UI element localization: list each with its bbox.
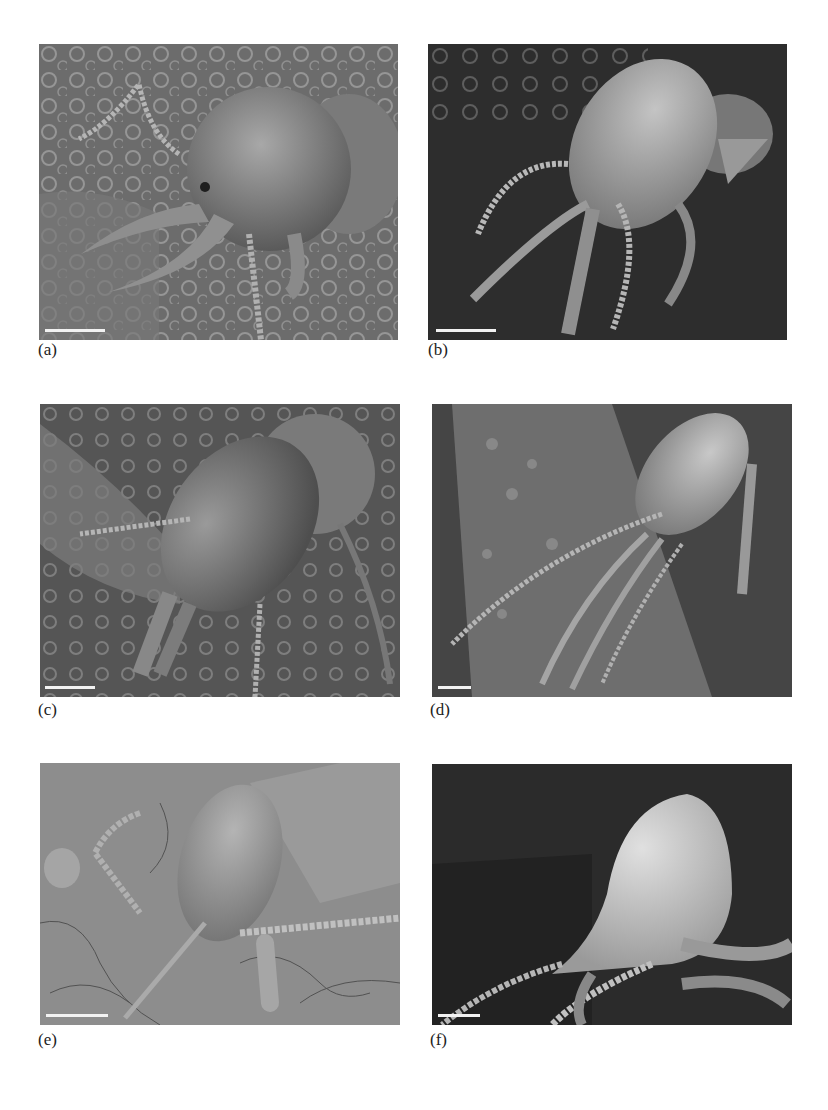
micrograph-d [432,404,792,697]
termite-soldier-image [432,404,792,697]
panel-label: (c) [38,700,57,720]
scale-bar [45,686,95,689]
panel-label: (d) [430,700,450,720]
scale-bar [46,1014,108,1017]
panel-label: (e) [38,1030,57,1050]
micrograph-a [39,44,398,340]
scale-bar [438,1014,480,1017]
panel-label: (f) [430,1030,447,1050]
termite-soldier-image [432,764,792,1025]
scale-bar [45,329,105,332]
termite-soldier-image [40,404,400,697]
panel-label: (a) [38,340,57,360]
micrograph-c [40,404,400,697]
micrograph-f [432,764,792,1025]
panel-label: (b) [428,340,448,360]
scale-bar [438,686,471,689]
termite-soldier-image [428,44,787,340]
termite-soldier-image [40,763,400,1025]
termite-soldier-image [39,44,398,340]
micrograph-b [428,44,787,340]
micrograph-e [40,763,400,1025]
scale-bar [436,329,496,332]
